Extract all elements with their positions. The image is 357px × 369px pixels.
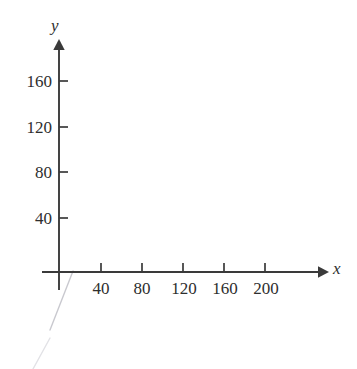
y-axis	[53, 39, 64, 290]
x-axis-label: x	[333, 260, 341, 277]
y-tick-label-80: 80	[12, 164, 52, 181]
y-tick-label-40: 40	[12, 210, 52, 227]
x-tick-label-160: 160	[212, 280, 238, 297]
x-tick-label-40: 40	[93, 280, 110, 297]
y-tick-label-160: 160	[12, 73, 52, 90]
x-tick-label-80: 80	[134, 280, 151, 297]
x-axis-ticks	[101, 263, 265, 272]
y-axis-label: y	[51, 17, 59, 34]
y-axis-ticks	[59, 81, 68, 218]
x-tick-label-200: 200	[253, 280, 279, 297]
x-tick-label-120: 120	[171, 280, 197, 297]
coordinate-axes-figure: 160 120 80 40 40 80 120 160 200 y x	[0, 0, 357, 369]
y-tick-label-120: 120	[12, 119, 52, 136]
axes-drawing	[0, 0, 357, 369]
x-axis	[42, 266, 329, 277]
scan-artifact-lines	[33, 271, 73, 369]
